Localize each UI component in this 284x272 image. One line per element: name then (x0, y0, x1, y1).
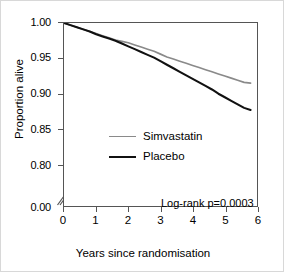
y-axis-label: Proportion alive (13, 44, 25, 154)
legend-swatch (109, 136, 136, 137)
x-tick-label: 4 (180, 214, 206, 226)
plot-area (63, 22, 258, 207)
y-tick-label: 0.80 (30, 160, 51, 171)
survival-curves (64, 23, 257, 206)
figure-container: 1.000.950.900.850.800.00 Proportion aliv… (0, 0, 284, 272)
x-axis-label: Years since randomisation (1, 247, 284, 259)
y-axis-tick-labels: 1.000.950.900.850.800.00 (1, 1, 59, 272)
x-tick-label: 2 (115, 214, 141, 226)
y-tick-mark (58, 129, 63, 130)
y-tick-label: 0.90 (30, 88, 51, 99)
y-tick-label: 0.00 (30, 202, 51, 213)
x-tick-mark (63, 207, 64, 212)
legend-item-simvastatin: Simvastatin (109, 129, 202, 144)
curve-placebo (64, 23, 251, 110)
x-tick-mark (96, 207, 97, 212)
x-tick-label: 0 (50, 214, 76, 226)
y-tick-mark (58, 22, 63, 23)
x-tick-mark (128, 207, 129, 212)
x-tick-label: 6 (245, 214, 271, 226)
legend-label: Simvastatin (143, 131, 202, 143)
y-tick-mark (58, 94, 63, 95)
y-tick-label: 1.00 (30, 17, 51, 28)
y-tick-label: 0.85 (30, 124, 51, 135)
legend-item-placebo: Placebo (109, 149, 202, 164)
log-rank-annotation: Log-rank p=0.0003 (161, 197, 254, 209)
y-tick-mark (58, 58, 63, 59)
y-tick-label: 0.95 (30, 52, 51, 63)
x-tick-label: 1 (83, 214, 109, 226)
x-tick-label: 3 (148, 214, 174, 226)
legend-swatch (109, 156, 136, 158)
legend-label: Placebo (143, 151, 185, 163)
legend: SimvastatinPlacebo (109, 129, 202, 169)
y-tick-mark (58, 165, 63, 166)
x-tick-label: 5 (213, 214, 239, 226)
x-tick-mark (258, 207, 259, 212)
